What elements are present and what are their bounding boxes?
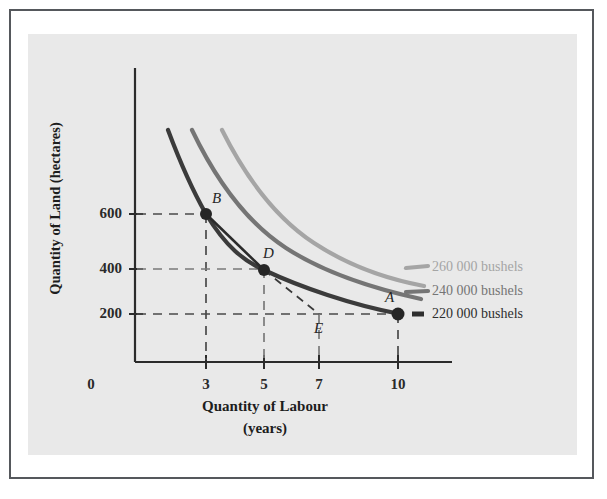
x-axis-title-units: (years) xyxy=(170,420,360,437)
point-marker-d xyxy=(258,264,270,276)
isoquant-curve-220000 xyxy=(168,130,400,314)
point-label-a: A xyxy=(385,289,394,306)
legend-label-260000: 260 000 bushels xyxy=(432,259,523,275)
figure-root: Quantity of Land (hectares) Quantity of … xyxy=(0,0,607,499)
y-tick-label-400: 400 xyxy=(74,260,122,277)
point-label-d: D xyxy=(263,245,274,262)
point-marker-a xyxy=(392,308,405,321)
x-tick-label-5: 5 xyxy=(249,376,279,393)
x-tick-label-10: 10 xyxy=(383,376,413,393)
y-axis-title: Quantity of Land (hectares) xyxy=(47,94,64,324)
point-marker-b xyxy=(200,208,212,220)
legend-label-220000: 220 000 bushels xyxy=(432,306,523,322)
point-label-b: B xyxy=(212,190,221,207)
x-axis-title: Quantity of Labour xyxy=(170,398,360,415)
segment-d-to-e xyxy=(264,270,319,314)
legend-label-240000: 240 000 bushels xyxy=(432,283,523,299)
x-tick-label-7: 7 xyxy=(304,376,334,393)
y-tick-label-200: 200 xyxy=(74,305,122,322)
point-label-e: E xyxy=(314,320,323,337)
isoquant-curve-240000 xyxy=(192,130,421,299)
legend-swatch-240000 xyxy=(406,291,428,292)
legend-swatch-260000 xyxy=(406,266,428,268)
y-tick-label-600: 600 xyxy=(74,205,122,222)
x-tick-label-0: 0 xyxy=(76,376,106,393)
x-tick-label-3: 3 xyxy=(191,376,221,393)
